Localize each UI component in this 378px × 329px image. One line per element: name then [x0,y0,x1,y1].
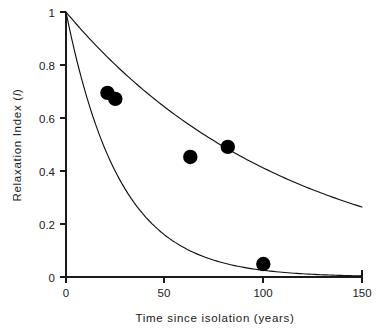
y-tick-label-0.6: 0.6 [39,113,55,125]
x-tick-labels: 0 50 100 150 [63,287,372,299]
y-axis-title-text: Relaxation Index ( [11,96,23,201]
data-point [108,92,122,106]
y-tick-label-0: 0 [49,272,55,284]
lower-decay-curve [66,12,362,276]
y-axis-title: Relaxation Index (I) [11,88,23,201]
data-point [183,150,197,164]
x-tick-label-150: 150 [352,287,371,299]
observed-data-points [100,86,270,272]
axes-group [66,12,362,277]
x-tick-label-50: 50 [158,287,171,299]
relaxation-index-chart: 1 0.8 0.6 0.4 0.2 0 0 50 100 150 Time si… [0,0,378,329]
x-tick-label-100: 100 [253,287,272,299]
upper-decay-curve [66,12,362,207]
data-point [221,140,235,154]
y-tick-group [60,12,66,277]
chart-canvas: 1 0.8 0.6 0.4 0.2 0 0 50 100 150 Time si… [0,0,378,329]
y-tick-label-0.2: 0.2 [39,219,55,231]
x-axis-title: Time since isolation (years) [135,312,294,324]
y-tick-label-1: 1 [49,7,55,19]
y-tick-labels: 1 0.8 0.6 0.4 0.2 0 [39,7,56,284]
x-tick-label-0: 0 [63,287,69,299]
x-tick-group [66,277,362,283]
data-point [256,257,270,271]
y-tick-label-0.4: 0.4 [39,166,56,178]
y-tick-label-0.8: 0.8 [39,60,55,72]
y-axis-title-paren: ) [11,88,23,93]
